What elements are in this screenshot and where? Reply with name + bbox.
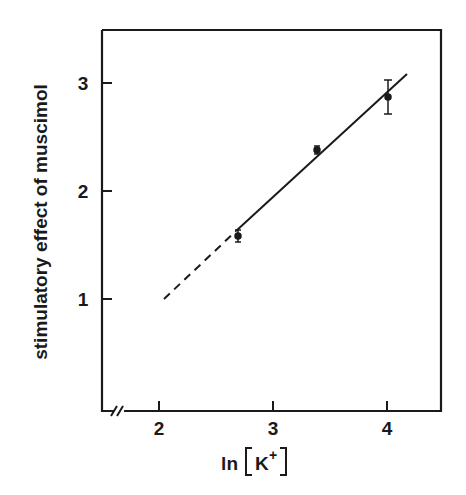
chart: 3 2 1 2 3 4 stimulatory effect of muscim…	[0, 0, 466, 495]
x-tick-label-2: 2	[154, 418, 165, 439]
x-axis-label: ln K +	[221, 447, 286, 475]
plot-frame	[102, 30, 441, 411]
fit-line-solid	[236, 74, 407, 231]
data-point-3	[384, 80, 392, 114]
x-ticks	[159, 401, 387, 411]
y-tick-label-2: 2	[78, 181, 89, 202]
y-axis-label: stimulatory effect of muscimol	[30, 84, 51, 360]
right-bracket	[280, 448, 286, 475]
x-axis-label-ion: K	[255, 453, 269, 474]
y-ticks	[102, 83, 112, 299]
x-axis-label-prefix: ln	[221, 453, 238, 474]
data-point-2	[314, 146, 320, 154]
x-tick-label-4: 4	[382, 418, 393, 439]
x-axis-label-charge: +	[269, 447, 277, 463]
left-bracket	[246, 448, 252, 475]
fit-line-dashed	[164, 231, 236, 299]
x-tick-label-3: 3	[268, 418, 279, 439]
y-tick-label-1: 1	[78, 289, 89, 310]
y-tick-label-3: 3	[78, 73, 89, 94]
